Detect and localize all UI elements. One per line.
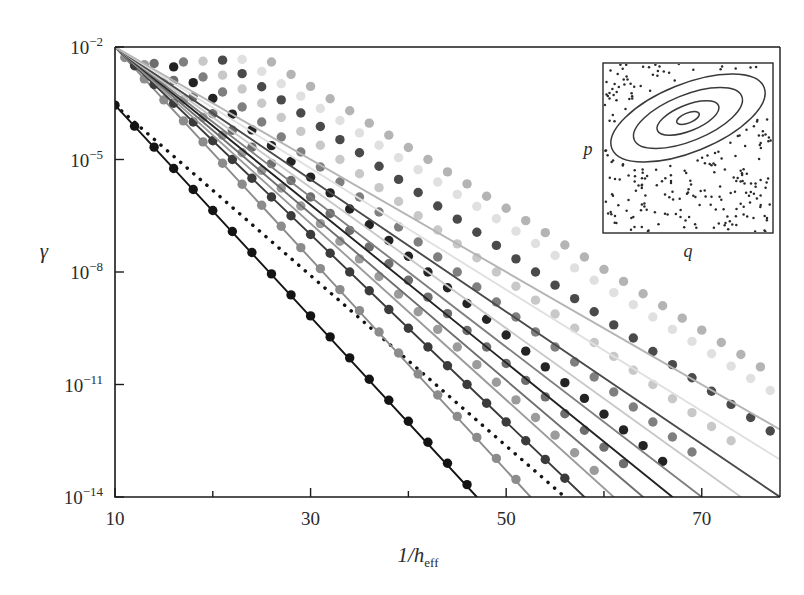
chaotic-orbit-point [605, 93, 608, 96]
data-point [472, 360, 481, 369]
chaotic-orbit-point [734, 67, 737, 70]
data-point [355, 169, 364, 178]
chaotic-orbit-point [605, 81, 608, 84]
chaotic-orbit-point [704, 195, 707, 198]
data-point [629, 333, 638, 342]
data-point [629, 300, 638, 309]
chaotic-orbit-point [610, 213, 613, 216]
data-point [384, 305, 393, 314]
chaotic-orbit-point [689, 180, 692, 183]
data-point [179, 57, 188, 66]
chaotic-orbit-point [759, 194, 762, 197]
chaotic-orbit-point [641, 168, 644, 171]
data-point [511, 282, 520, 291]
data-point [697, 325, 706, 334]
chaotic-orbit-point [692, 195, 695, 198]
data-point [531, 267, 540, 276]
x-axis-title-italic: h [414, 543, 425, 567]
chaotic-orbit-point [694, 223, 697, 226]
x-tick-label: 50 [497, 508, 516, 529]
chaotic-orbit-point [670, 174, 673, 177]
data-point [257, 117, 266, 126]
chaotic-orbit-point [656, 184, 659, 187]
data-point [198, 137, 207, 146]
data-point [707, 422, 716, 431]
data-point [560, 378, 569, 387]
chaotic-orbit-point [632, 216, 635, 219]
chaotic-orbit-point [713, 171, 716, 174]
chaotic-orbit-point [649, 90, 652, 93]
chaotic-orbit-point [678, 198, 681, 201]
data-point [394, 175, 403, 184]
data-point [413, 188, 422, 197]
chaotic-orbit-point [648, 66, 651, 69]
data-point [316, 122, 325, 131]
chaotic-orbit-point [615, 99, 618, 102]
x-tick-label: 10 [106, 508, 125, 529]
data-point [560, 474, 569, 483]
data-point [492, 454, 501, 463]
chaotic-orbit-point [641, 226, 644, 229]
chaotic-orbit-point [696, 159, 699, 162]
chaotic-orbit-point [762, 134, 765, 137]
data-point [257, 67, 266, 76]
data-point [609, 387, 618, 396]
chaotic-orbit-point [718, 195, 721, 198]
data-point [198, 72, 207, 81]
chaotic-orbit-point [760, 147, 763, 150]
chaotic-orbit-point [615, 91, 618, 94]
chaotic-orbit-point [709, 204, 712, 207]
data-point [316, 264, 325, 273]
chaotic-orbit-point [639, 85, 642, 88]
chaotic-orbit-point [666, 213, 669, 216]
data-point [453, 214, 462, 223]
inset-x-axis-label: q [684, 241, 693, 261]
chaotic-orbit-point [604, 149, 607, 152]
chaotic-orbit-point [752, 217, 755, 220]
chaotic-orbit-point [668, 72, 671, 75]
data-point [443, 167, 452, 176]
chaotic-orbit-point [635, 189, 638, 192]
data-point [531, 295, 540, 304]
data-point [462, 480, 471, 489]
chaotic-orbit-point [679, 216, 682, 219]
chaotic-orbit-point [713, 227, 716, 230]
chaotic-orbit-point [625, 75, 628, 78]
chaotic-orbit-point [753, 192, 756, 195]
data-point [325, 94, 334, 103]
chaotic-orbit-point [766, 118, 769, 121]
chaotic-orbit-point [742, 205, 745, 208]
data-point [325, 249, 334, 258]
chaotic-orbit-point [687, 188, 690, 191]
chaotic-orbit-point [753, 125, 756, 128]
chaotic-orbit-point [729, 141, 732, 144]
data-point [648, 312, 657, 321]
data-point [453, 412, 462, 421]
data-point [609, 320, 618, 329]
chaotic-orbit-point [614, 215, 617, 218]
chaotic-orbit-point [748, 195, 751, 198]
data-point [619, 425, 628, 434]
data-point [355, 148, 364, 157]
data-point [335, 116, 344, 125]
data-point [521, 436, 530, 445]
data-point [296, 127, 305, 136]
data-point [580, 394, 589, 403]
chaotic-orbit-point [609, 69, 612, 72]
chaotic-orbit-point [664, 177, 667, 180]
chaotic-orbit-point [606, 154, 609, 157]
data-point [511, 226, 520, 235]
chaotic-orbit-point [622, 78, 625, 81]
data-point [306, 82, 315, 91]
chaotic-orbit-point [739, 170, 742, 173]
chaotic-orbit-point [623, 83, 626, 86]
data-point [648, 417, 657, 426]
chaotic-orbit-point [645, 209, 648, 212]
chaotic-orbit-point [683, 169, 686, 172]
chaotic-orbit-point [654, 211, 657, 214]
chaotic-orbit-point [657, 223, 660, 226]
chaotic-orbit-point [729, 192, 732, 195]
chaotic-orbit-point [703, 189, 706, 192]
chaotic-orbit-point [669, 165, 672, 168]
chaotic-orbit-point [727, 228, 730, 231]
